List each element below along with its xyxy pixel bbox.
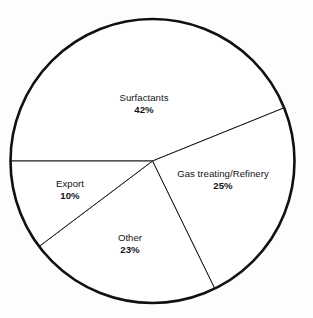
pie-slice-group: [11, 19, 295, 303]
pie-chart-graphic: [0, 0, 313, 318]
pie-chart: Surfactants 42% Gas treating/Refinery 25…: [0, 0, 313, 318]
